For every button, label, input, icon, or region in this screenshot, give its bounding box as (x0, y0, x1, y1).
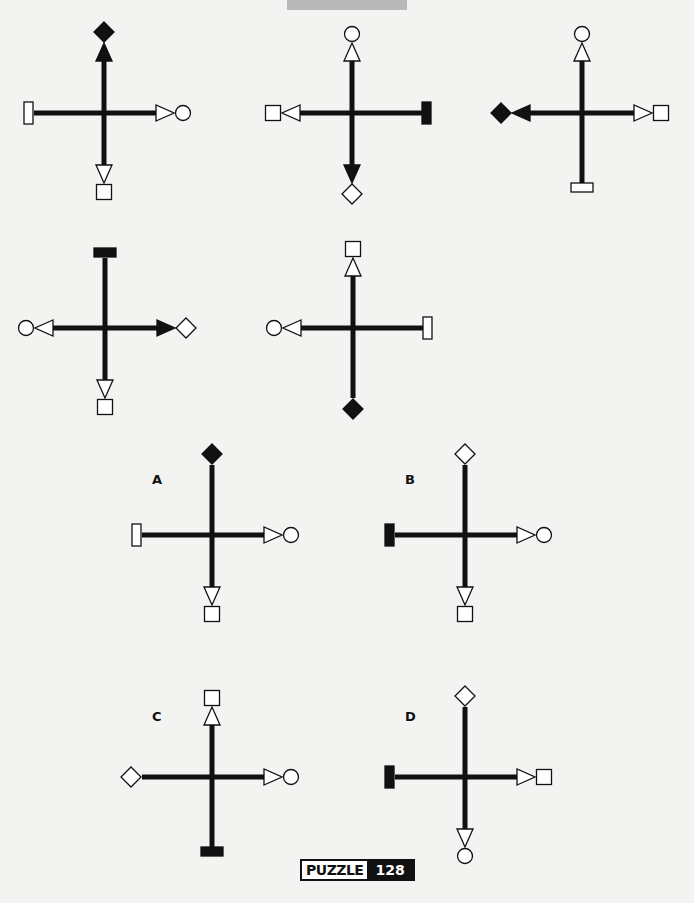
sequence-figure-1-open-square-down-icon (97, 185, 112, 200)
sequence-figure-3-filled-diamond-left-icon (491, 103, 511, 123)
option-figure-a-arrowhead-down-icon (204, 587, 220, 605)
option-figure-c-arrowhead-right-icon (264, 769, 282, 785)
option-label-d[interactable]: D (405, 709, 416, 724)
sequence-figure-5-arrowhead-left-icon (283, 320, 301, 336)
sequence-figure-3-open-square-right-icon (654, 106, 669, 121)
option-figure-c (121, 691, 299, 857)
sequence-figure-5-filled-diamond-down-icon (343, 399, 363, 419)
option-figure-c-open-diamond-left-icon (121, 767, 141, 787)
sequence-figure-5-open-bar-right-icon (423, 317, 432, 339)
sequence-figure-4 (19, 248, 197, 415)
sequence-figure-1-arrowhead-up-icon (96, 43, 112, 61)
sequence-figure-2-open-square-left-icon (266, 106, 281, 121)
sequence-figure-4-filled-bar-up-icon (94, 248, 116, 257)
sequence-figure-2 (266, 27, 432, 205)
sequence-figure-3-arrowhead-right-icon (634, 105, 652, 121)
option-figure-b-open-square-down-icon (458, 607, 473, 622)
option-figure-d-open-circle-down-icon (458, 849, 473, 864)
sequence-figure-1 (24, 22, 191, 200)
sequence-figure-1-open-circle-right-icon (176, 106, 191, 121)
option-figure-a-open-circle-right-icon (284, 528, 299, 543)
option-figure-d-open-square-right-icon (537, 770, 552, 785)
sequence-figure-5 (267, 242, 433, 420)
option-figure-c-arrowhead-up-icon (204, 707, 220, 725)
sequence-figure-2-arrowhead-left-icon (282, 105, 300, 121)
option-figure-a-filled-diamond-up-icon (202, 444, 222, 464)
sequence-figure-4-open-diamond-right-icon (176, 318, 196, 338)
sequence-figure-2-filled-bar-right-icon (422, 102, 431, 124)
puzzle-label: PUZZLE (302, 861, 367, 879)
option-figure-d-arrowhead-right-icon (517, 769, 535, 785)
sequence-figure-3-open-circle-up-icon (575, 27, 590, 42)
sequence-figure-4-arrowhead-right-icon (157, 320, 175, 336)
option-figure-a-open-bar-left-icon (132, 524, 141, 546)
sequence-figure-1-arrowhead-down-icon (96, 165, 112, 183)
sequence-figure-1-open-bar-left-icon (24, 102, 33, 124)
sequence-figure-4-arrowhead-left-icon (35, 320, 53, 336)
sequence-figure-5-open-circle-left-icon (267, 321, 282, 336)
option-label-a[interactable]: A (152, 472, 162, 487)
puzzle-canvas (0, 0, 694, 903)
sequence-figure-3 (491, 27, 669, 193)
sequence-figure-1-arrowhead-right-icon (156, 105, 174, 121)
option-figure-c-open-circle-right-icon (284, 770, 299, 785)
option-figure-c-filled-bar-down-icon (201, 847, 223, 856)
option-figure-b-open-circle-right-icon (537, 528, 552, 543)
option-figure-b (385, 444, 552, 622)
sequence-figure-4-open-square-down-icon (98, 400, 113, 415)
sequence-figure-4-arrowhead-down-icon (97, 380, 113, 398)
sequence-figure-2-arrowhead-up-icon (344, 43, 360, 61)
sequence-figure-4-open-circle-left-icon (19, 321, 34, 336)
sequence-figure-5-open-square-up-icon (346, 242, 361, 257)
option-figure-b-arrowhead-down-icon (457, 587, 473, 605)
sequence-figure-2-arrowhead-down-icon (344, 165, 360, 183)
option-figure-a-arrowhead-right-icon (264, 527, 282, 543)
option-figure-b-arrowhead-right-icon (517, 527, 535, 543)
puzzle-number: 128 (367, 861, 412, 879)
sequence-figure-1-filled-diamond-up-icon (94, 22, 114, 42)
sequence-figure-5-arrowhead-up-icon (345, 258, 361, 276)
sequence-figure-3-arrowhead-up-icon (574, 43, 590, 61)
option-figure-a-open-square-down-icon (205, 607, 220, 622)
option-figure-d-filled-bar-left-icon (385, 766, 394, 788)
option-figure-a (132, 444, 299, 622)
option-figure-b-open-diamond-up-icon (455, 444, 475, 464)
sequence-figure-2-open-circle-up-icon (345, 27, 360, 42)
sequence-figure-3-open-bar-down-icon (571, 183, 593, 192)
sequence-figure-3-arrowhead-left-icon (512, 105, 530, 121)
option-figure-d-arrowhead-down-icon (457, 829, 473, 847)
option-figure-d-open-diamond-up-icon (455, 686, 475, 706)
option-figure-b-filled-bar-left-icon (385, 524, 394, 546)
puzzle-badge: PUZZLE 128 (300, 859, 415, 881)
sequence-figure-2-open-diamond-down-icon (342, 184, 362, 204)
option-label-b[interactable]: B (405, 472, 415, 487)
option-label-c[interactable]: C (152, 709, 162, 724)
option-figure-c-open-square-up-icon (205, 691, 220, 706)
